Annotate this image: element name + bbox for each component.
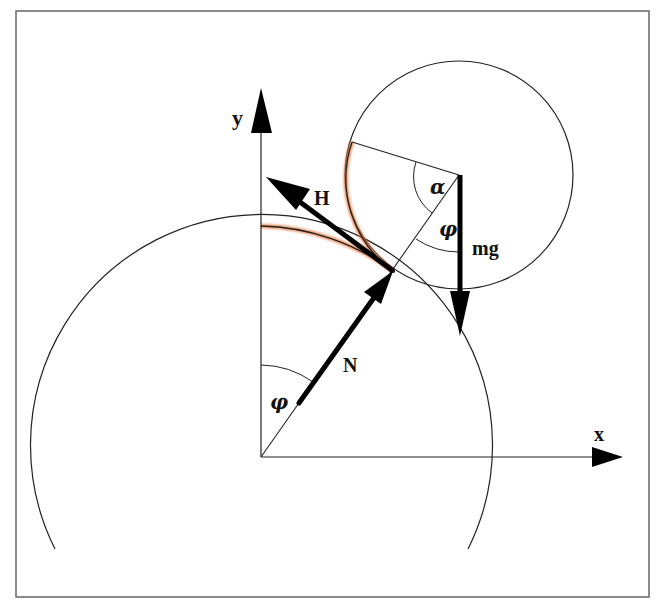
x-axis: x [261, 423, 623, 467]
gravity-force-arrow: mg [450, 175, 499, 336]
normal-force-arrow: N [299, 271, 393, 403]
alpha-label: α [430, 175, 445, 199]
x-axis-arrowhead-icon [592, 447, 623, 467]
y-axis: y [232, 88, 272, 457]
physics-diagram: y x mg N H α φ φ [0, 0, 658, 599]
y-axis-label: y [232, 105, 243, 130]
friction-force-arrow: H [266, 177, 393, 271]
phi-label-top: φ [439, 217, 457, 241]
n-label: N [343, 354, 358, 376]
contact-point [391, 269, 395, 273]
y-axis-arrowhead-icon [251, 88, 272, 133]
mg-arrowhead-icon [450, 291, 470, 336]
x-axis-label: x [594, 423, 604, 445]
phi-angle-arc-bottom [261, 365, 313, 382]
disc-radius-line [352, 142, 459, 175]
frame-border [16, 11, 649, 597]
phi-label-bottom: φ [270, 390, 288, 414]
n-arrowhead-icon [364, 271, 393, 304]
mg-label: mg [472, 237, 499, 260]
h-label: H [314, 187, 330, 209]
